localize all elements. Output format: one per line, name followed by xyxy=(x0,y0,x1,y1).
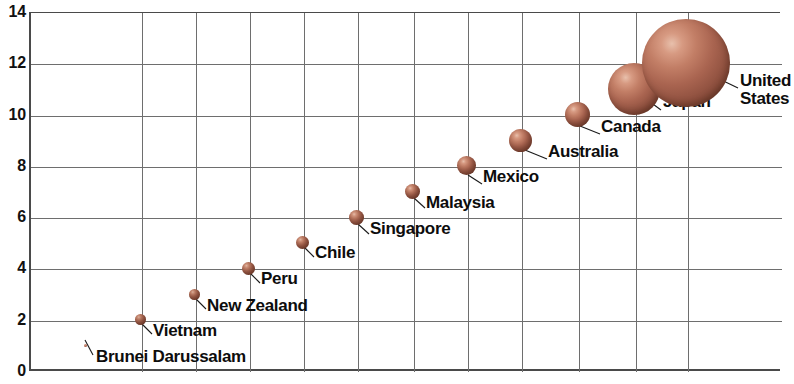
country-label-line: United xyxy=(740,72,794,90)
country-label: UnitedStates xyxy=(740,72,794,108)
data-bubble xyxy=(642,19,730,107)
bubble-chart: 14121086420 Brunei DarussalamVietnamNew … xyxy=(0,0,794,384)
country-label-line: States xyxy=(740,90,794,108)
